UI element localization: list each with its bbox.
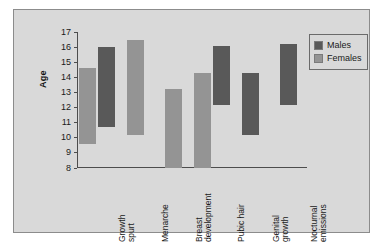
bar-males-genital-growth: [242, 73, 259, 135]
bar-females-growth-spurt: [79, 68, 96, 144]
x-axis-category-labels: Growth spurtMenarcheBreast developmentPu…: [77, 170, 307, 242]
chart-legend: MalesFemales: [309, 34, 368, 70]
x-axis-category-label: Nocturnal emissions: [283, 170, 355, 242]
y-axis-tick-label: 10: [61, 133, 74, 142]
bar-females-breast-development: [165, 89, 182, 168]
x-axis-category-label-text: Nocturnal emissions: [309, 170, 328, 242]
legend-item-males: Males: [314, 39, 362, 52]
legend-swatch-icon: [314, 54, 323, 63]
bar-females-pubic-hair: [194, 73, 211, 168]
bars-layer: [78, 32, 307, 167]
plot-area: [77, 32, 307, 168]
y-axis-tick-label: 8: [66, 164, 74, 173]
y-axis-tick-labels: 171615141312111098: [14, 32, 77, 168]
bar-males-growth-spurt: [98, 47, 115, 127]
y-axis-tick-label: 11: [62, 118, 74, 127]
bar-females-menarche: [127, 40, 144, 135]
y-axis-tick-label: 9: [66, 148, 74, 157]
y-axis-tick-label: 15: [61, 58, 74, 67]
y-axis-tick-label: 17: [61, 28, 74, 37]
legend-item-females: Females: [314, 52, 362, 65]
bar-males-nocturnal-emissions: [280, 44, 297, 104]
legend-swatch-icon: [314, 41, 323, 50]
y-axis-tick-label: 14: [61, 73, 74, 82]
legend-item-label: Females: [327, 54, 362, 63]
bar-males-pubic-hair: [213, 46, 230, 105]
legend-item-label: Males: [327, 41, 351, 50]
y-axis-tick-label: 16: [61, 43, 74, 52]
chart-figure-frame: Age 171615141312111098 Growth spurtMenar…: [13, 9, 370, 233]
y-axis-tick-label: 13: [61, 88, 74, 97]
y-axis-tick-label: 12: [61, 103, 74, 112]
